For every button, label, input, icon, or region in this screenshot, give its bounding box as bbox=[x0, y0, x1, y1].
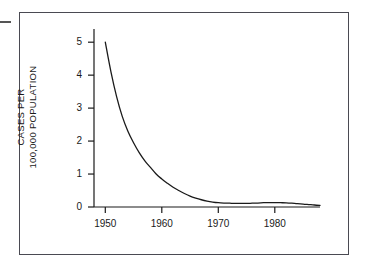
y-tick-label-5: 5 bbox=[66, 37, 82, 47]
y-tick-label-0: 0 bbox=[66, 202, 82, 212]
line-chart-svg bbox=[20, 13, 350, 256]
figure-frame: CASES PER 100,000 POPULATION 5 4 3 2 1 0… bbox=[19, 12, 349, 255]
y-tick-label-1: 1 bbox=[66, 169, 82, 179]
x-tick-label-1950: 1950 bbox=[87, 219, 123, 229]
y-tick-marks bbox=[88, 42, 94, 207]
x-tick-label-1960: 1960 bbox=[144, 219, 180, 229]
axes-group bbox=[94, 29, 320, 207]
x-tick-marks bbox=[105, 207, 274, 213]
chart-plot-area: CASES PER 100,000 POPULATION 5 4 3 2 1 0… bbox=[20, 13, 348, 254]
y-tick-label-3: 3 bbox=[66, 103, 82, 113]
y-tick-label-4: 4 bbox=[66, 70, 82, 80]
edge-mark bbox=[0, 21, 11, 23]
data-series-line bbox=[105, 42, 320, 205]
x-tick-label-1970: 1970 bbox=[200, 219, 236, 229]
y-tick-label-2: 2 bbox=[66, 136, 82, 146]
x-tick-label-1980: 1980 bbox=[257, 219, 293, 229]
